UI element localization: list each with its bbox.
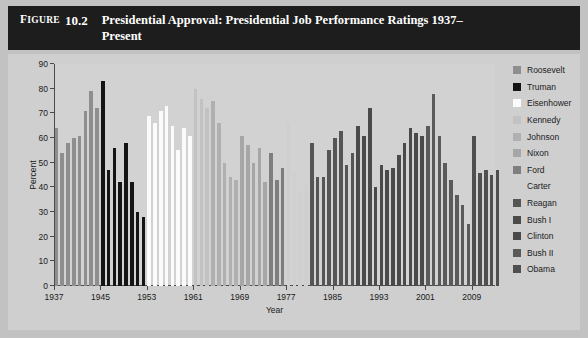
y-tick-mark <box>50 236 54 237</box>
bar <box>374 187 378 286</box>
x-axis-label: Year <box>266 305 283 315</box>
legend-item-roosevelt[interactable]: Roosevelt <box>513 62 588 79</box>
bar <box>229 177 233 286</box>
bar <box>142 217 146 286</box>
legend-item-kennedy[interactable]: Kennedy <box>513 112 588 129</box>
bar <box>176 150 180 286</box>
x-tick-mark <box>54 286 55 290</box>
legend-item-label: Clinton <box>527 231 553 241</box>
legend-item-label: Truman <box>527 82 556 92</box>
bar <box>153 123 157 286</box>
legend-item-nixon[interactable]: Nixon <box>513 145 588 162</box>
x-tick-mark <box>240 286 241 290</box>
bar <box>165 106 169 286</box>
bar <box>275 180 279 286</box>
bar <box>397 155 401 286</box>
bar <box>496 170 500 286</box>
y-tick-label: 40 <box>39 182 54 192</box>
bar <box>223 163 227 286</box>
chart-panel: 0102030405060708090 19371945195319611969… <box>8 54 580 330</box>
bar <box>351 153 355 286</box>
bar <box>101 81 105 286</box>
legend-item-label: Kennedy <box>527 115 561 125</box>
x-tick-mark <box>425 286 426 290</box>
bar <box>200 99 204 286</box>
bar <box>472 136 476 286</box>
legend-swatch-icon <box>513 149 521 157</box>
bar <box>78 136 82 286</box>
bar <box>356 126 360 286</box>
bar <box>310 143 314 286</box>
bar <box>304 185 308 286</box>
legend-swatch-icon <box>513 199 521 207</box>
y-tick-mark <box>50 137 54 138</box>
bar <box>298 192 302 286</box>
bar <box>124 143 128 286</box>
bar <box>258 148 262 286</box>
legend-item-carter[interactable]: Carter <box>513 178 588 195</box>
bar <box>188 136 192 286</box>
bar <box>426 126 430 286</box>
figure-header-inner: FIGURE10.2Presidential Approval: Preside… <box>20 13 574 44</box>
legend-item-reagan[interactable]: Reagan <box>513 195 588 212</box>
bar <box>478 173 482 286</box>
bar <box>194 89 198 286</box>
legend-item-label: Bush I <box>527 215 551 225</box>
bar <box>84 111 88 286</box>
figure-title: Presidential Approval: Presidential Job … <box>102 13 502 44</box>
y-tick-mark <box>50 211 54 212</box>
figure-number: 10.2 <box>65 13 88 29</box>
bar <box>327 150 331 286</box>
bar <box>118 182 122 286</box>
legend-item-ford[interactable]: Ford <box>513 162 588 179</box>
bar <box>72 138 76 286</box>
bar <box>368 108 372 286</box>
y-tick-label: 50 <box>39 158 54 168</box>
bar <box>490 175 494 286</box>
legend-item-bush-ii[interactable]: Bush II <box>513 245 588 262</box>
bar <box>438 136 442 286</box>
figure-label-smallcaps: IGURE <box>27 15 60 25</box>
bar <box>55 128 59 286</box>
y-tick-label: 90 <box>39 59 54 69</box>
bar <box>420 136 424 286</box>
legend-swatch-icon <box>513 249 521 257</box>
bar <box>130 182 134 286</box>
y-tick-mark <box>50 162 54 163</box>
x-tick-mark <box>100 286 101 290</box>
legend-swatch-icon <box>513 66 521 74</box>
x-tick-mark <box>379 286 380 290</box>
bar <box>409 128 413 286</box>
legend-item-bush-i[interactable]: Bush I <box>513 211 588 228</box>
legend-swatch-icon <box>513 232 521 240</box>
bar <box>95 108 99 286</box>
legend-item-label: Johnson <box>527 132 559 142</box>
y-tick-label: 10 <box>39 256 54 266</box>
legend-item-eisenhower[interactable]: Eisenhower <box>513 95 588 112</box>
legend-swatch-icon <box>513 116 521 124</box>
bar <box>89 91 93 286</box>
legend-item-label: Carter <box>527 181 551 191</box>
bar <box>449 180 453 286</box>
legend-item-clinton[interactable]: Clinton <box>513 228 588 245</box>
legend-item-johnson[interactable]: Johnson <box>513 128 588 145</box>
bar <box>414 133 418 286</box>
bar <box>171 126 175 286</box>
bar <box>217 123 221 286</box>
legend-item-label: Ford <box>527 165 544 175</box>
x-tick-mark <box>472 286 473 290</box>
y-tick-label: 70 <box>39 108 54 118</box>
legend-item-label: Obama <box>527 264 555 274</box>
bar <box>287 123 291 286</box>
bar <box>432 94 436 286</box>
bar <box>269 153 273 286</box>
x-tick-mark <box>286 286 287 290</box>
figure-label: FIGURE <box>20 13 60 25</box>
x-tick-mark <box>147 286 148 290</box>
legend-item-truman[interactable]: Truman <box>513 79 588 96</box>
bar <box>147 116 151 286</box>
bar <box>345 165 349 286</box>
legend-item-obama[interactable]: Obama <box>513 261 588 278</box>
bar <box>234 180 238 286</box>
legend-swatch-icon <box>513 265 521 273</box>
